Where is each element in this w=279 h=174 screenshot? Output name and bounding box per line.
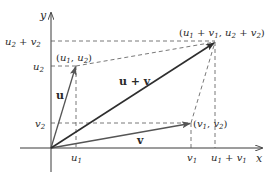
vector-label-u-plus-v: u + v [119,75,151,88]
guide-u-tip-to-sum [76,42,215,66]
x-tick-u1: u1 [71,152,82,165]
point-label-sum-tip: (u1 + v1, u2 + v2) [179,27,265,40]
y-tick-u2-plus-v2: u2 + v2 [5,36,41,49]
point-label-u-tip: (u1, u2) [56,52,92,65]
x-axis-label: x [256,152,263,165]
y-axis-label: y [39,9,47,22]
vector-u [51,67,76,148]
vector-v [51,124,190,149]
x-tick-u1-plus-v1: u1 + v1 [211,152,247,165]
vector-label-v: v [136,134,144,147]
vector-label-u: u [56,89,64,102]
point-label-v-tip: (v1, v2) [193,118,228,131]
guide-v-tip-to-sum [191,42,215,123]
diagram-canvas: y x u2 + v2 u2 v2 u1 v1 u1 + v1 (u1, u2)… [0,0,279,174]
vector-addition-diagram: y x u2 + v2 u2 v2 u1 v1 u1 + v1 (u1, u2)… [0,0,279,174]
x-tick-v1: v1 [187,152,197,165]
y-tick-v2: v2 [35,118,46,131]
y-tick-u2: u2 [33,61,44,74]
